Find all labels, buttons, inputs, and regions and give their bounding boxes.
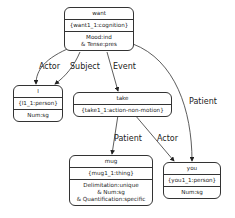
edge-label-actor: Actor <box>39 62 60 71</box>
node-want[interactable]: want {want1_1:cognition} Mood:ind & Tens… <box>64 7 134 51</box>
node-i-title: I <box>14 86 62 97</box>
edge-label-patient-mug: Patient <box>114 134 142 143</box>
node-mug-id: {mug1_1:thing} <box>70 167 152 179</box>
node-want-id: {want1_1:cognition} <box>65 19 133 31</box>
node-take[interactable]: take {take1_1:action-non-motion} <box>73 92 172 117</box>
node-you-id: {you1_1:person} <box>164 174 220 186</box>
edge-want-take-event <box>107 52 118 91</box>
feature: Delimitation:unique <box>71 182 151 189</box>
node-i[interactable]: I {I1_1:person} Num:sg <box>13 85 63 122</box>
edge-label-subject: Subject <box>70 62 100 71</box>
node-you-title: you <box>164 163 220 174</box>
node-take-id: {take1_1:action-non-motion} <box>74 104 171 116</box>
edge-label-patient-you: Patient <box>189 97 217 106</box>
node-mug[interactable]: mug {mug1_1:thing} Delimitation:unique &… <box>69 155 153 206</box>
node-want-features: Mood:ind & Tense:pres <box>65 31 133 50</box>
edge-label-event: Event <box>113 62 136 71</box>
feature: & Tense:pres <box>66 41 132 48</box>
node-you[interactable]: you {you1_1:person} Num:sg <box>163 162 221 199</box>
node-i-features: Num:sg <box>14 109 62 121</box>
node-i-id: {I1_1:person} <box>14 97 62 109</box>
node-mug-features: Delimitation:unique & Num:sg & Quantific… <box>70 179 152 205</box>
node-mug-title: mug <box>70 156 152 167</box>
node-want-title: want <box>65 8 133 19</box>
feature: & Quantification:specific <box>71 196 151 203</box>
feature: Mood:ind <box>66 34 132 41</box>
node-take-title: take <box>74 93 171 104</box>
feature: & Num:sg <box>71 189 151 196</box>
edge-label-actor-you: Actor <box>157 134 178 143</box>
node-you-features: Num:sg <box>164 186 220 198</box>
